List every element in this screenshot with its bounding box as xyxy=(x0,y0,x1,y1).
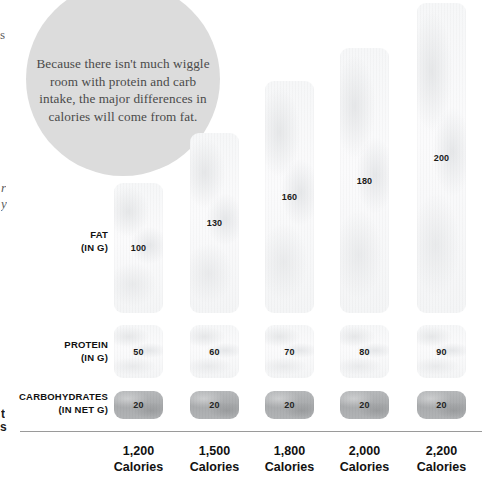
x-tick-calories: 1,500 xyxy=(180,444,249,460)
row-label-protein-line2: (IN G) xyxy=(14,352,108,365)
x-tick-label: 1,800 Calories xyxy=(255,444,324,475)
row-label-fat-line2: (IN G) xyxy=(14,242,108,255)
carbohydrate-value: 20 xyxy=(359,400,369,410)
fat-value: 100 xyxy=(131,243,147,253)
row-label-carbohydrates-line2: (IN NET G) xyxy=(8,404,108,417)
carbohydrate-value: 20 xyxy=(284,400,294,410)
protein-segment[interactable]: 80 xyxy=(340,325,389,378)
plot-area: 100 50 20 130 60 20 160 xyxy=(0,0,482,431)
x-tick-calories: 2,200 xyxy=(407,444,476,460)
protein-value: 50 xyxy=(133,347,143,357)
fat-value: 200 xyxy=(434,153,450,163)
carbohydrate-segment[interactable]: 20 xyxy=(114,391,163,419)
carbohydrate-value: 20 xyxy=(133,400,143,410)
x-tick-label: 2,000 Calories xyxy=(330,444,399,475)
row-label-protein: PROTEIN (IN G) xyxy=(14,339,108,364)
carbohydrate-value: 20 xyxy=(209,400,219,410)
x-tick-unit: Calories xyxy=(104,460,173,476)
fat-value: 130 xyxy=(207,218,223,228)
row-label-fat: FAT (IN G) xyxy=(14,229,108,254)
x-tick-label: 1,200 Calories xyxy=(104,444,173,475)
fat-segment[interactable]: 160 xyxy=(265,81,314,313)
axis-baseline xyxy=(20,431,482,432)
carbohydrate-segment[interactable]: 20 xyxy=(340,391,389,419)
fat-segment[interactable]: 180 xyxy=(340,48,389,313)
protein-value: 70 xyxy=(284,347,294,357)
chart-figure: s r y t s Because there isn't much wiggl… xyxy=(0,0,482,479)
protein-value: 90 xyxy=(436,347,446,357)
bar-column: 160 70 20 xyxy=(265,0,314,431)
bar-column: 100 50 20 xyxy=(114,0,163,431)
carbohydrate-value: 20 xyxy=(436,400,446,410)
carbohydrate-segment[interactable]: 20 xyxy=(265,391,314,419)
x-tick-unit: Calories xyxy=(255,460,324,476)
fat-segment[interactable]: 200 xyxy=(417,3,466,313)
x-tick-calories: 2,000 xyxy=(330,444,399,460)
carbohydrate-segment[interactable]: 20 xyxy=(190,391,239,419)
x-tick-unit: Calories xyxy=(407,460,476,476)
fat-value: 160 xyxy=(282,192,298,202)
bar-column: 130 60 20 xyxy=(190,0,239,431)
row-label-carbohydrates-line1: CARBOHYDRATES xyxy=(8,391,108,404)
row-label-carbohydrates: CARBOHYDRATES (IN NET G) xyxy=(8,391,108,416)
fat-value: 180 xyxy=(357,176,373,186)
x-tick-unit: Calories xyxy=(330,460,399,476)
x-tick-unit: Calories xyxy=(180,460,249,476)
x-tick-calories: 1,800 xyxy=(255,444,324,460)
protein-segment[interactable]: 50 xyxy=(114,325,163,378)
carbohydrate-segment[interactable]: 20 xyxy=(417,391,466,419)
row-label-protein-line1: PROTEIN xyxy=(14,339,108,352)
bar-column: 200 90 20 xyxy=(417,0,466,431)
protein-value: 60 xyxy=(209,347,219,357)
protein-segment[interactable]: 70 xyxy=(265,325,314,378)
x-tick-calories: 1,200 xyxy=(104,444,173,460)
fat-segment[interactable]: 100 xyxy=(114,183,163,313)
protein-value: 80 xyxy=(359,347,369,357)
protein-segment[interactable]: 60 xyxy=(190,325,239,378)
row-label-fat-line1: FAT xyxy=(14,229,108,242)
protein-segment[interactable]: 90 xyxy=(417,325,466,378)
x-tick-label: 1,500 Calories xyxy=(180,444,249,475)
bar-column: 180 80 20 xyxy=(340,0,389,431)
x-tick-label: 2,200 Calories xyxy=(407,444,476,475)
fat-segment[interactable]: 130 xyxy=(190,133,239,313)
